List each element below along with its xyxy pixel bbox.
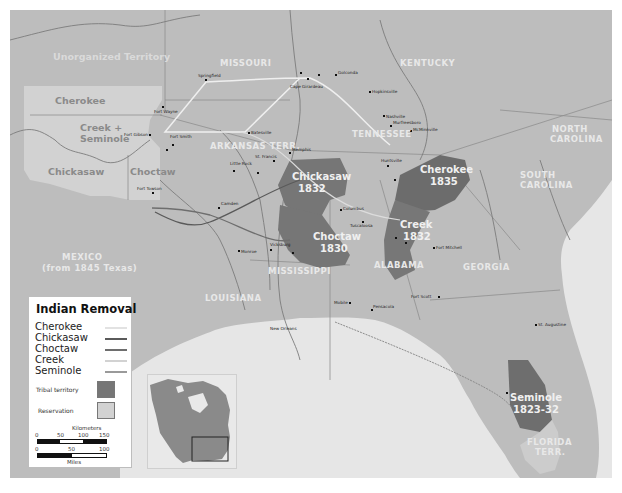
city-mcminnville: McMinnville [413, 127, 438, 132]
label-chickasaw-reservation: Chickasaw [48, 166, 104, 177]
km-tick-50: 50 [57, 432, 64, 438]
label-kentucky: KENTUCKY [400, 58, 456, 68]
label-creek-1832: Creek1832 [400, 219, 433, 242]
city-murfreesboro: Murfreesboro [393, 120, 421, 125]
city-huntsville: Huntsville [381, 158, 402, 163]
label-creek-seminole-reservation: Creek +Seminole [80, 122, 129, 144]
city-fort-gibson: Fort Gibson [124, 132, 148, 137]
legend-reservation-label: Reservation [38, 407, 74, 414]
legend-cherokee-line [105, 327, 127, 329]
city-st-francis: St. Francis [255, 154, 277, 159]
map-legend: Indian Removal Cherokee Chickasaw Chocta… [28, 296, 132, 468]
legend-creek-line [105, 360, 127, 362]
km-tick-150: 150 [99, 432, 110, 438]
label-unorganized-territory: Unorganized Territory [53, 51, 171, 62]
legend-choctaw-line [105, 349, 127, 351]
city-memphis: Memphis [292, 147, 311, 152]
label-georgia: GEORGIA [463, 262, 510, 272]
mi-scale-bar [37, 453, 107, 458]
label-missouri: MISSOURI [220, 58, 271, 68]
city-fort-mitchell: Fort Mitchell [436, 245, 462, 250]
mi-tick-50: 50 [68, 446, 75, 452]
city-fort-towson: Fort Towson [137, 186, 162, 191]
city-monroe: Monroe [241, 249, 257, 254]
legend-tribal-territory-label: Tribal territory [36, 386, 79, 393]
legend-chickasaw-label: Chickasaw [35, 332, 88, 343]
legend-seminole-line [105, 371, 127, 373]
city-little-rock: Little Rock [230, 161, 252, 166]
legend-cherokee-label: Cherokee [35, 321, 82, 332]
north-america-inset-map [147, 374, 237, 469]
label-alabama: ALABAMA [374, 260, 424, 270]
city-vicksburg: Vicksburg [270, 242, 291, 247]
north-america-shape [148, 375, 236, 468]
label-choctaw-reservation: Choctaw [130, 166, 176, 177]
legend-tribal-territory-swatch [97, 381, 115, 398]
legend-chickasaw-line [105, 338, 127, 340]
city-mobile: Mobile [334, 300, 348, 305]
city-batesville: Batesville [251, 130, 272, 135]
mi-tick-100: 100 [99, 446, 110, 452]
city-camden: Camden [221, 201, 239, 206]
city-columbus: Columbus [343, 206, 364, 211]
legend-choctaw-label: Choctaw [35, 343, 78, 354]
legend-seminole-label: Seminole [35, 365, 81, 376]
km-tick-0: 0 [35, 432, 39, 438]
city-fort-smith: Fort Smith [170, 134, 192, 139]
city-golconda: Golconda [338, 70, 358, 75]
city-fort-scott: Fort Scott [411, 294, 432, 299]
legend-km-label: Kilometers [72, 425, 101, 431]
city-fort-wayne: Fort Wayne [154, 109, 178, 114]
city-tuscaloosa: Tuscaloosa [349, 223, 373, 228]
label-louisiana: LOUISIANA [205, 293, 261, 303]
city-cape-girardeau: Cape Girardeau [290, 84, 323, 89]
city-nashville: Nashville [386, 114, 406, 119]
label-arkansas: ARKANSAS TERR. [210, 141, 300, 151]
label-cherokee-reservation: Cherokee [55, 95, 105, 106]
legend-creek-label: Creek [35, 354, 64, 365]
label-seminole-1823-32: Seminole1823-32 [510, 392, 562, 415]
city-hopkinsville: Hopkinsville [372, 89, 398, 94]
legend-mi-label: Miles [67, 459, 81, 465]
label-mississippi: MISSISSIPPI [268, 266, 331, 276]
mi-tick-0: 0 [35, 446, 39, 452]
label-tennessee: TENNESSEE [352, 129, 412, 139]
city-springfield: Springfield [198, 73, 221, 78]
km-tick-100: 100 [78, 432, 89, 438]
km-scale-bar [37, 439, 107, 444]
city-pensacola: Pensacola [373, 304, 394, 309]
legend-title: Indian Removal [36, 302, 136, 316]
legend-reservation-swatch [97, 402, 115, 419]
city-new-orleans: New Orleans [270, 326, 297, 331]
city-st-augustine: St. Augustine [538, 322, 566, 327]
